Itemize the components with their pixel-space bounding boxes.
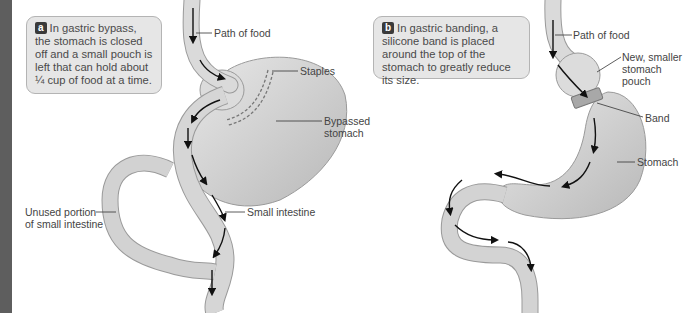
label-bypassed-stomach-1: Bypassed [324, 115, 370, 127]
panel-b-caption: In gastric banding, a silicone band is p… [382, 22, 511, 86]
label-bypassed-stomach-2: stomach [324, 127, 364, 139]
label-new-pouch-3: pouch [622, 75, 651, 87]
panel-b-badge: b [382, 22, 394, 34]
label-path-of-food-b: Path of food [573, 29, 630, 41]
label-band: Band [645, 112, 670, 124]
panel-a-badge: a [35, 22, 47, 34]
label-path-of-food-a: Path of food [214, 27, 271, 39]
panel-a-caption: In gastric bypass, the stomach is closed… [35, 22, 152, 86]
label-new-pouch-1: New, smaller [622, 51, 682, 63]
label-unused-portion-1: Unused portion [25, 206, 96, 218]
label-unused-portion-2: of small intestine [25, 218, 103, 230]
label-staples: Staples [300, 65, 335, 77]
callout-gastric-bypass: aIn gastric bypass, the stomach is close… [26, 16, 162, 94]
label-new-pouch-2: stomach [622, 63, 662, 75]
callout-gastric-banding: bIn gastric banding, a silicone band is … [373, 16, 530, 79]
label-small-intestine: Small intestine [247, 206, 315, 218]
label-stomach: Stomach [637, 156, 678, 168]
